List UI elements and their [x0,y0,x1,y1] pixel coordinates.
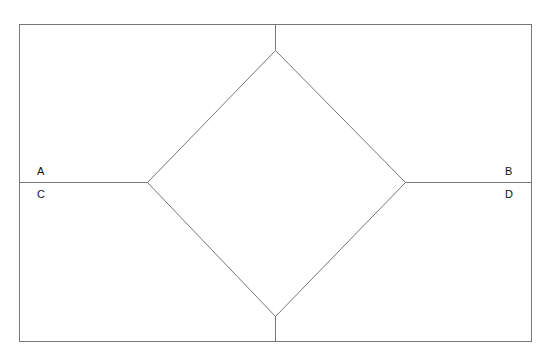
label-a: A [37,166,44,177]
label-d: D [505,189,513,200]
label-c: C [37,189,45,200]
connector-lines [20,25,532,342]
diagram-canvas [0,0,545,352]
label-b: B [505,166,512,177]
center-diamond [148,51,406,317]
